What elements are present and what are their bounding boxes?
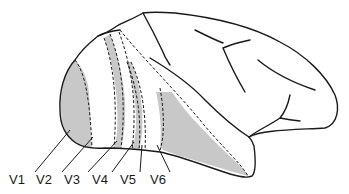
label-v5: V5	[120, 173, 136, 186]
brain-diagram: V1 V2 V3 V4 V5 V6	[0, 0, 349, 194]
label-v6: V6	[150, 173, 166, 186]
label-v2: V2	[36, 173, 52, 186]
brain-illustration	[0, 0, 349, 194]
label-v1: V1	[9, 173, 25, 186]
label-v4: V4	[92, 173, 108, 186]
label-v3: V3	[64, 173, 80, 186]
